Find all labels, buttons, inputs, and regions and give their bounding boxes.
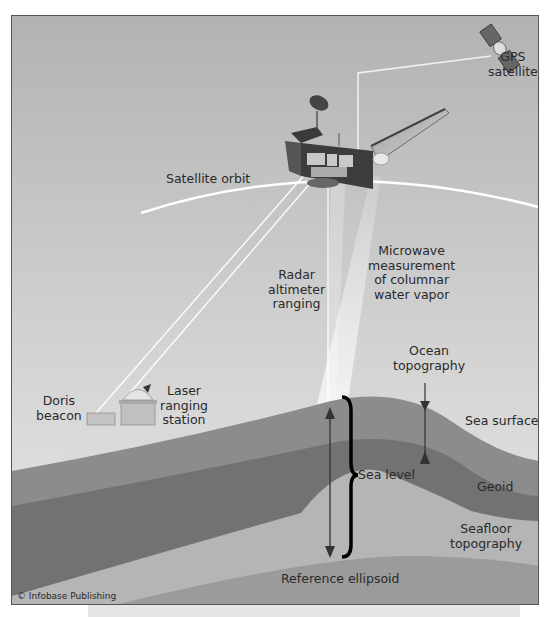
label-microwave: Microwave measurement of columnar water …: [368, 244, 455, 302]
label-satellite-orbit: Satellite orbit: [166, 172, 250, 187]
label-radar: Radar altimeter ranging: [268, 268, 325, 312]
label-seafloor-topography: Seafloor topography: [450, 522, 522, 551]
doris-beacon-icon: [87, 413, 115, 425]
label-laser-station: Laser ranging station: [160, 384, 208, 428]
label-ocean-topography: Ocean topography: [393, 344, 465, 373]
label-reference-ellipsoid: Reference ellipsoid: [281, 572, 400, 587]
bottom-strip: [88, 605, 520, 617]
label-sea-level: Sea level: [358, 468, 415, 483]
label-sea-surface: Sea surface: [465, 414, 538, 429]
label-doris-beacon: Doris beacon: [36, 394, 82, 423]
credit-text: © Infobase Publishing: [17, 591, 116, 601]
label-gps-satellite: GPS satellite: [488, 50, 538, 79]
label-geoid: Geoid: [477, 480, 513, 495]
